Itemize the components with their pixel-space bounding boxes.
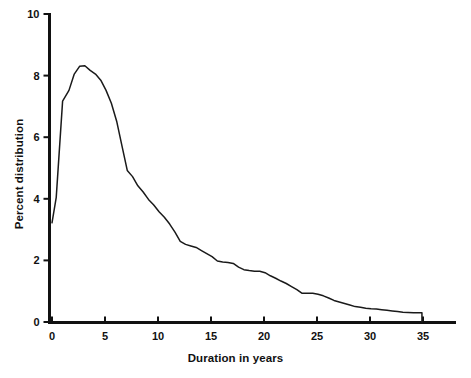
x-tick-label: 0 (49, 331, 55, 342)
x-tick-label: 15 (205, 331, 217, 342)
y-tick-label: 4 (33, 193, 39, 204)
chart-plot-area (0, 0, 471, 378)
y-tick-label: 10 (27, 9, 39, 20)
x-tick-label: 35 (417, 331, 429, 342)
x-tick-label: 5 (102, 331, 108, 342)
x-tick-label: 10 (152, 331, 164, 342)
x-tick-label: 30 (364, 331, 376, 342)
y-tick-label: 2 (33, 255, 39, 266)
x-axis-title: Duration in years (0, 352, 471, 364)
data-series-line (52, 66, 422, 322)
x-tick-label: 25 (311, 331, 323, 342)
y-tick-label: 0 (33, 317, 39, 328)
x-tick-label: 20 (258, 331, 270, 342)
y-axis-title: Percent distribution (13, 94, 25, 254)
chart-figure: 0246810 05101520253035 Percent distribut… (0, 0, 471, 378)
y-tick-label: 6 (33, 132, 39, 143)
y-tick-label: 8 (33, 70, 39, 81)
